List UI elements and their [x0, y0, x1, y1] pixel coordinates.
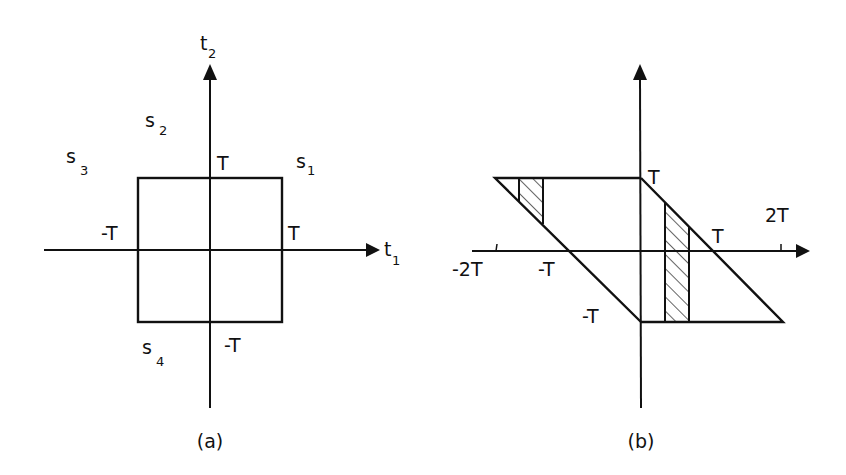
tick-label-x-pos2: 2T [765, 204, 789, 226]
panel-a: t 2 t 1 T T -T -T s 1 s 2 s 3 s 4 (a) [44, 32, 400, 452]
tick-label-t2-pos: T [216, 152, 229, 174]
panel-b: T -T -2T -T T 2T (b) [452, 64, 810, 452]
tick-neg-2t [496, 244, 497, 251]
y-arrow-icon [633, 64, 647, 80]
region-label-s2-sub: 2 [159, 123, 167, 138]
tick-label-x-pos1: T [711, 225, 724, 247]
region-label-s3: s [66, 145, 76, 167]
hatched-strip-left [519, 178, 543, 224]
hatched-strip-right [665, 202, 689, 322]
t2-axis-label-sub: 2 [208, 46, 216, 61]
tick-label-x-neg2: -2T [452, 258, 483, 280]
region-label-s4: s [142, 336, 152, 358]
region-label-s1: s [296, 150, 306, 172]
tick-label-t2-neg: -T [224, 334, 241, 356]
tick-label-t1-neg: -T [101, 222, 118, 244]
region-label-s4-sub: 4 [156, 354, 164, 369]
region-label-s3-sub: 3 [80, 163, 88, 178]
t2-axis-label: t [200, 32, 207, 54]
t1-axis-label: t [384, 238, 391, 260]
x-arrow-icon [796, 244, 810, 258]
y-axis [640, 78, 641, 408]
figure-canvas: t 2 t 1 T T -T -T s 1 s 2 s 3 s 4 (a) [0, 0, 846, 475]
caption-b: (b) [628, 430, 655, 452]
t1-axis-label-sub: 1 [392, 253, 400, 268]
tick-label-y-neg: -T [582, 305, 599, 327]
t2-arrow-icon [203, 64, 217, 80]
region-label-s2: s [145, 109, 155, 131]
region-label-s1-sub: 1 [307, 163, 315, 178]
tick-label-y-pos: T [647, 166, 660, 188]
tick-label-t1-pos: T [287, 222, 300, 244]
t1-arrow-icon [366, 243, 380, 257]
caption-a: (a) [197, 430, 223, 452]
tick-label-x-neg1: -T [538, 258, 555, 280]
